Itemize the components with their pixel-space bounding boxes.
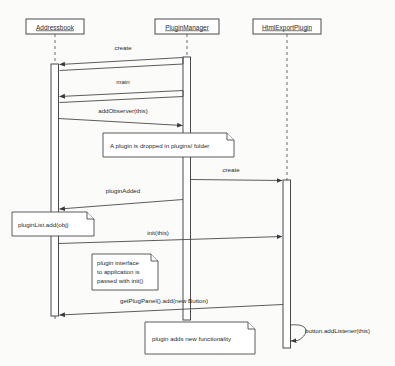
lifeline-head-addressbook[interactable]: Addressbook bbox=[26, 19, 84, 34]
message-getplugpanel[interactable]: getPlugPanel().add(new Button) bbox=[60, 297, 284, 315]
activation-bar-addressbook bbox=[51, 64, 59, 316]
activation-bar-pluginmanager bbox=[183, 57, 191, 320]
message-label-main: main bbox=[116, 78, 130, 85]
activation-bar-htmlexportplugin bbox=[283, 180, 291, 348]
note-new-functionality[interactable]: plugin adds new functionality bbox=[145, 322, 255, 354]
lifeline-label-pluginmanager: PluginManager bbox=[165, 24, 209, 32]
message-label-getplugpanel: getPlugPanel().add(new Button) bbox=[120, 297, 208, 304]
message-create[interactable]: create bbox=[60, 44, 184, 71]
message-label-create: create bbox=[114, 44, 132, 51]
message-label-addobserver: addObserver(this) bbox=[98, 107, 148, 114]
lifeline-label-addressbook: Addressbook bbox=[36, 24, 75, 31]
note-plugin-dropped[interactable]: A plugin is dropped in plugins/ folder bbox=[103, 133, 234, 157]
message-addlistener-selfcall[interactable]: button.addListener(this) bbox=[291, 325, 371, 341]
message-label-create2: create bbox=[222, 166, 240, 173]
note-plugin-interface-line-2: passed with init() bbox=[97, 277, 143, 284]
note-plugin-interface-line-1: to application is bbox=[97, 268, 140, 275]
note-pluginlist-add-line-0: pluginList.add(obj) bbox=[18, 221, 69, 228]
message-main[interactable]: main bbox=[60, 78, 184, 103]
note-pluginlist-add[interactable]: pluginList.add(obj) bbox=[12, 212, 94, 236]
lifeline-label-htmlexportplugin: HtmlExportPlugin bbox=[262, 24, 313, 32]
message-addobserver[interactable]: addObserver(this) bbox=[59, 107, 183, 126]
message-label-addlistener: button.addListener(this) bbox=[305, 327, 370, 334]
message-label-pluginadded: pluginAdded bbox=[106, 187, 141, 194]
note-plugin-dropped-line-0: A plugin is dropped in plugins/ folder bbox=[110, 142, 209, 149]
lifeline-head-htmlexportplugin[interactable]: HtmlExportPlugin bbox=[253, 19, 321, 34]
selfcall-loop bbox=[291, 325, 307, 341]
diagram-svg: Addressbook PluginManager HtmlExportPlug… bbox=[0, 0, 395, 366]
message-create2[interactable]: create bbox=[191, 166, 283, 181]
lifeline-head-pluginmanager[interactable]: PluginManager bbox=[155, 19, 219, 34]
message-pluginadded[interactable]: pluginAdded bbox=[60, 187, 184, 209]
note-plugin-interface-line-0: plugin interface bbox=[97, 259, 140, 266]
message-label-init: init(this) bbox=[147, 229, 169, 236]
sequence-diagram-canvas: Addressbook PluginManager HtmlExportPlug… bbox=[0, 0, 395, 366]
note-plugin-interface[interactable]: plugin interface to application is passe… bbox=[92, 254, 158, 290]
note-new-functionality-line-0: plugin adds new functionality bbox=[152, 335, 232, 342]
